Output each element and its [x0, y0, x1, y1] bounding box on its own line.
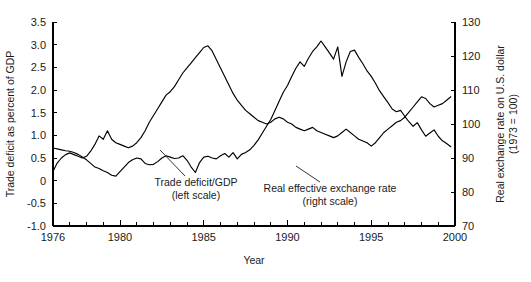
exchange-rate-annotation-leader-line [296, 166, 320, 182]
trade-deficit-annotation-leader-line [160, 150, 185, 176]
x-axis-tick-label: 1976 [41, 231, 65, 243]
x-axis-tick-label: 1990 [275, 231, 299, 243]
left-axis-tick-label: 2.0 [31, 84, 46, 96]
series-line-trade-deficit-gdp [53, 41, 451, 176]
exchange-rate-annotation-label-line2: (right scale) [303, 195, 358, 207]
left-axis-tick-label: 0.5 [31, 152, 46, 164]
left-axis-tick-label: 3.5 [31, 16, 46, 28]
left-axis-title: Trade deficit as percent of GDP [4, 51, 16, 198]
right-axis-tick-label: 130 [462, 16, 480, 28]
right-axis-title-line1: Real exchange rate on U.S. dollar [494, 45, 506, 203]
right-axis-tick-label: 120 [462, 50, 480, 62]
right-axis-tick-label: 100 [462, 118, 480, 130]
x-axis-tick-label: 1985 [192, 231, 216, 243]
annotations-group: Trade deficit/GDP(left scale)Real effect… [154, 150, 396, 207]
x-axis: 197619801985199019952000 [41, 220, 467, 243]
left-axis-tick-label: 1.0 [31, 129, 46, 141]
left-axis-tick-label: 2.5 [31, 61, 46, 73]
axis-titles-group: Trade deficit as percent of GDPReal exch… [4, 45, 519, 266]
x-axis-title: Year [243, 254, 265, 266]
x-axis-tick-label: 2000 [443, 231, 467, 243]
x-axis-tick-label: 1995 [359, 231, 383, 243]
right-axis-tick-label: 110 [462, 84, 480, 96]
left-axis-tick-label: 1.5 [31, 107, 46, 119]
left-axis-tick-label: 3.0 [31, 39, 46, 51]
right-axis-tick-label: 90 [462, 152, 474, 164]
series-line-real-effective-exchange-rate [53, 46, 451, 172]
x-axis-tick-label: 1980 [108, 231, 132, 243]
left-axis: 3.53.02.52.01.51.00.50-0.5-1.0 [27, 16, 57, 232]
right-axis-title-line2: (1973 = 100) [507, 94, 519, 154]
left-axis-tick-label: -0.5 [27, 197, 46, 209]
left-axis-tick-label: 0 [40, 175, 46, 187]
trade-deficit-annotation-label-line1: Trade deficit/GDP [154, 176, 237, 188]
right-axis-tick-label: 80 [462, 186, 474, 198]
right-axis: 130120110100908070 [451, 16, 480, 232]
exchange-rate-annotation-label-line1: Real effective exchange rate [264, 182, 397, 194]
trade-deficit-exchange-rate-chart: 3.53.02.52.01.51.00.50-0.5-1.0 130120110… [0, 0, 531, 282]
trade-deficit-annotation-label-line2: (left scale) [172, 189, 220, 201]
figure-container: 3.53.02.52.01.51.00.50-0.5-1.0 130120110… [0, 0, 531, 282]
data-series-group [53, 41, 451, 176]
